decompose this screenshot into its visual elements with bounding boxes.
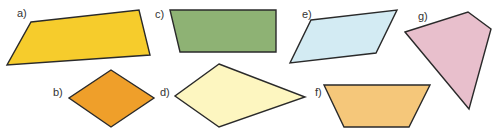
shape-b-rhombus — [69, 70, 154, 127]
shapes-layer — [7, 10, 491, 127]
shape-f-isosceles-trapezium — [324, 85, 430, 127]
shape-label-d: d) — [160, 86, 170, 98]
shape-label-a: a) — [17, 7, 27, 19]
quadrilaterals-diagram: a)b)c)d)e)f)g) — [0, 0, 494, 129]
shape-c-trapezium — [170, 10, 276, 52]
shape-label-b: b) — [53, 86, 63, 98]
shape-label-c: c) — [155, 8, 164, 20]
shape-label-g: g) — [418, 10, 428, 22]
shape-label-f: f) — [315, 86, 322, 98]
shape-d-kite — [175, 64, 305, 127]
shape-label-e: e) — [302, 8, 312, 20]
shape-a-trapezium — [7, 10, 150, 65]
